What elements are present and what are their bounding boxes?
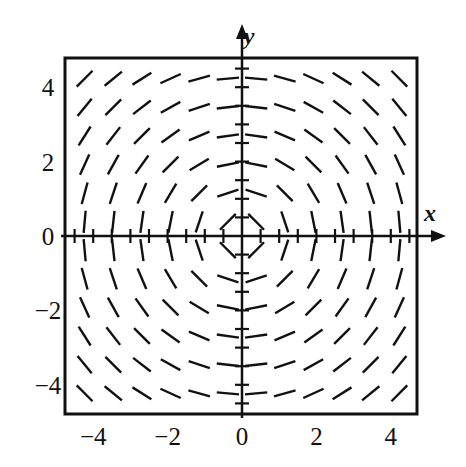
x-tick-label: −4 bbox=[80, 423, 107, 450]
x-axis-label: x bbox=[423, 200, 436, 226]
y-tick-label: 2 bbox=[42, 149, 55, 176]
y-tick-label: −2 bbox=[35, 297, 62, 324]
x-tick-label: −2 bbox=[154, 423, 181, 450]
x-tick-label: 4 bbox=[385, 423, 398, 450]
y-axis-label: y bbox=[241, 23, 255, 49]
slope-field-figure: −4−2024420−2−4 x y bbox=[0, 0, 466, 467]
y-tick-label: 4 bbox=[42, 74, 55, 101]
x-tick-label: 2 bbox=[310, 423, 323, 450]
y-tick-label: −4 bbox=[35, 372, 62, 399]
x-tick-label: 0 bbox=[236, 423, 249, 450]
y-tick-label: 0 bbox=[42, 223, 55, 250]
plot-canvas: −4−2024420−2−4 x y bbox=[0, 0, 466, 467]
